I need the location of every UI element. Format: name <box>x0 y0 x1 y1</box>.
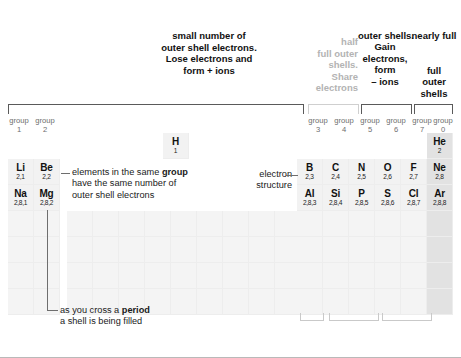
structure-magnesium: 2,8,2 <box>34 199 59 206</box>
table-row-transition-2 <box>67 237 327 263</box>
note-same-group: elements in the same group have the same… <box>72 167 188 201</box>
element-helium: He 2 <box>427 133 453 159</box>
caption-noble-line-1 <box>410 42 458 54</box>
cell-empty <box>197 237 223 263</box>
cell-empty-noble <box>427 211 453 237</box>
element-aluminium: Al 2,8,3 <box>297 185 323 211</box>
cell-empty <box>8 211 34 237</box>
structure-sulfur: 2,8,6 <box>375 199 400 206</box>
cell-empty <box>401 237 427 263</box>
caption-metals: small number of outer shell electrons. L… <box>118 30 300 76</box>
group-label-3: group 3 <box>305 117 331 134</box>
symbol-boron: B <box>297 162 322 173</box>
symbol-nitrogen: N <box>349 162 374 173</box>
note-same-group-line-1: elements in the same group <box>72 167 188 178</box>
group-label-2: group 2 <box>32 117 58 134</box>
caption-gain-line-3: electrons, <box>358 53 412 65</box>
caption-metals-line-4: form + ions <box>118 65 300 77</box>
cell-empty-noble <box>427 289 453 315</box>
cell-empty <box>197 289 223 315</box>
cell-empty <box>8 289 34 315</box>
symbol-hydrogen: H <box>163 136 188 147</box>
caption-metals-line-2: outer shell electrons. <box>118 42 300 54</box>
structure-helium: 2 <box>427 147 452 154</box>
structure-chlorine: 2,8,7 <box>401 199 426 206</box>
structure-argon: 2,8,8 <box>427 199 452 206</box>
group-label-0: group 0 <box>430 117 456 134</box>
label-electron-structure: electron structure <box>240 169 292 192</box>
element-magnesium: Mg 2,8,2 <box>34 185 60 211</box>
bracket-share <box>308 104 359 114</box>
note-period-line-1: as you cross a period <box>60 305 150 316</box>
structure-neon: 2,8 <box>427 173 452 180</box>
symbol-beryllium: Be <box>34 162 59 173</box>
leader-line-group-note <box>61 173 70 174</box>
cell-empty <box>375 263 401 289</box>
cell-empty <box>67 237 93 263</box>
caption-noble-line-0: nearly full <box>410 30 458 42</box>
group-label-2-num: 2 <box>32 126 58 135</box>
cell-empty <box>8 263 34 289</box>
group-label-6: group 6 <box>383 117 409 134</box>
symbol-argon: Ar <box>427 188 452 199</box>
caption-noble-line-3: full <box>410 65 458 77</box>
table-row-empty-right-2 <box>297 237 453 263</box>
cell-empty <box>375 289 401 315</box>
cell-empty <box>297 237 323 263</box>
caption-gain-line-2: Gain <box>358 41 412 53</box>
note-same-group-line-2: have the same number of <box>72 178 188 189</box>
cell-empty <box>171 263 197 289</box>
leader-line-period-horizontal <box>47 310 58 311</box>
element-sulfur: S 2,8,6 <box>375 185 401 211</box>
cell-empty <box>223 237 249 263</box>
caption-metals-line-3: Lose electrons and <box>118 53 300 65</box>
symbol-silicon: Si <box>323 188 348 199</box>
grid-groups-3-0: B 2,3 C 2,4 N 2,5 O 2,6 F 2,7 Ne 2,8 <box>297 159 453 315</box>
group-label-4: group 4 <box>331 117 357 134</box>
cell-empty <box>323 211 349 237</box>
structure-hydrogen: 1 <box>163 147 188 154</box>
symbol-neon: Ne <box>427 162 452 173</box>
symbol-oxygen: O <box>375 162 400 173</box>
table-row-period-2-left: Li 2,1 Be 2,2 <box>8 159 60 185</box>
cell-empty <box>93 263 119 289</box>
caption-gain-line-5: – ions <box>358 76 412 88</box>
group-label-5: group 5 <box>357 117 383 134</box>
symbol-chlorine: Cl <box>401 188 426 199</box>
cell-empty <box>249 211 275 237</box>
label-electron-structure-line-1: electron <box>240 169 292 180</box>
element-oxygen: O 2,6 <box>375 159 401 185</box>
cell-empty <box>119 211 145 237</box>
grid-transition-metals <box>67 211 327 315</box>
note-period-line-2: a shell is being filled <box>60 316 150 327</box>
cell-empty <box>119 237 145 263</box>
symbol-fluorine: F <box>401 162 426 173</box>
cell-empty <box>67 211 93 237</box>
cell-empty <box>297 289 323 315</box>
structure-boron: 2,3 <box>297 173 322 180</box>
cell-empty <box>297 211 323 237</box>
cell-empty <box>249 263 275 289</box>
element-sodium: Na 2,8,1 <box>8 185 34 211</box>
structure-nitrogen: 2,5 <box>349 173 374 180</box>
cell-empty <box>119 263 145 289</box>
table-row-empty-right-4 <box>297 289 453 315</box>
table-row-empty-right-3 <box>297 263 453 289</box>
cell-empty <box>171 289 197 315</box>
cell-empty <box>349 237 375 263</box>
caption-noble-line-5: shells <box>410 88 458 100</box>
table-row-empty-left-2 <box>8 237 60 263</box>
element-chlorine: Cl 2,8,7 <box>401 185 427 211</box>
bottom-bracket-2 <box>329 313 379 321</box>
element-lithium: Li 2,1 <box>8 159 34 185</box>
element-beryllium: Be 2,2 <box>34 159 60 185</box>
label-electron-structure-line-2: structure <box>240 180 292 191</box>
group-label-4-num: 4 <box>331 126 357 135</box>
structure-fluorine: 2,7 <box>401 173 426 180</box>
group-label-3-num: 3 <box>305 126 331 135</box>
periodic-table-diagram: small number of outer shell electrons. L… <box>0 0 461 358</box>
group-label-1: group 1 <box>6 117 32 134</box>
structure-lithium: 2,1 <box>8 173 33 180</box>
cell-empty <box>223 289 249 315</box>
caption-share-line-2: full outer <box>296 48 358 60</box>
